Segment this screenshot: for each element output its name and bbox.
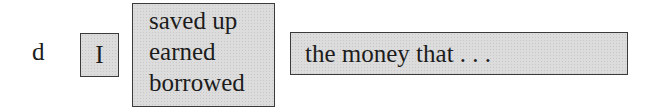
subject-text: I [95,41,103,69]
verb-option: earned [149,36,274,67]
item-label: d [32,38,45,66]
verb-options-box: saved up earned borrowed [132,3,275,107]
object-text: the money that . . . [305,40,491,68]
verb-option: borrowed [149,67,274,98]
subject-box: I [80,33,119,77]
verb-option: saved up [149,5,274,36]
object-box: the money that . . . [290,32,628,75]
